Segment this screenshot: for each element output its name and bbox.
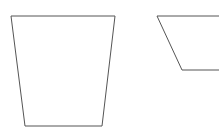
shape-canvas	[0, 0, 219, 138]
canvas-background	[0, 0, 219, 138]
shape-canvas-container	[0, 0, 219, 138]
